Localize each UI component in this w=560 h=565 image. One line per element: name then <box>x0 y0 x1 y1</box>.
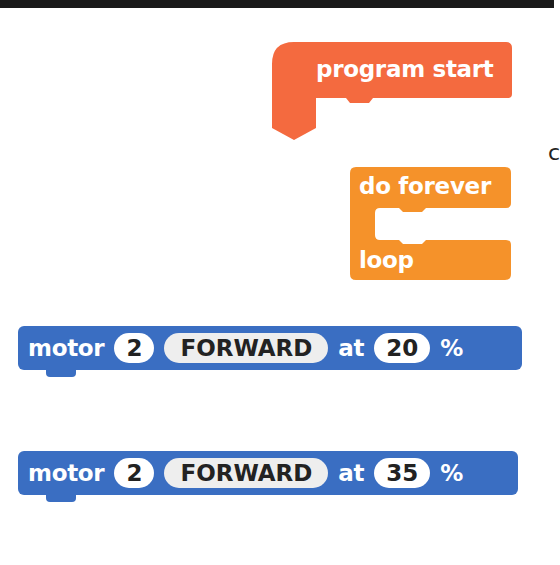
loop-label: loop <box>359 247 414 273</box>
connector-tab <box>46 369 76 377</box>
motor-label: motor <box>28 460 104 486</box>
program-start-label: program start <box>316 56 494 82</box>
clipped-edge-text: c <box>548 140 560 165</box>
motor-label: motor <box>28 335 104 361</box>
do-forever-block[interactable]: do forever loop <box>350 167 511 280</box>
motor-block[interactable]: motor 2 FORWARD at 20 % <box>18 326 522 370</box>
percent-label: % <box>440 335 463 361</box>
port-field[interactable]: 2 <box>114 458 154 488</box>
motor-block[interactable]: motor 2 FORWARD at 35 % <box>18 451 518 495</box>
at-label: at <box>338 335 364 361</box>
program-start-block[interactable]: program start <box>272 42 512 142</box>
direction-dropdown[interactable]: FORWARD <box>164 333 328 363</box>
top-border <box>0 0 554 8</box>
port-field[interactable]: 2 <box>114 333 154 363</box>
connector-tab <box>46 494 76 502</box>
speed-field[interactable]: 35 <box>374 458 430 488</box>
do-forever-label: do forever <box>359 173 491 199</box>
at-label: at <box>338 460 364 486</box>
direction-dropdown[interactable]: FORWARD <box>164 458 328 488</box>
percent-label: % <box>440 460 463 486</box>
speed-field[interactable]: 20 <box>374 333 430 363</box>
